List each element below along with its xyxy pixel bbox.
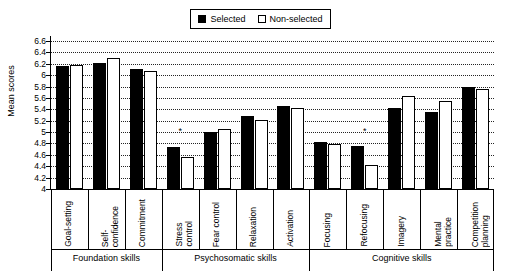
bar-group <box>420 41 457 189</box>
bar-selected <box>56 66 69 189</box>
bar-selected <box>388 108 401 189</box>
bar-non-selected <box>328 144 341 189</box>
x-tick-label: Fear control <box>212 202 222 247</box>
bar-group <box>236 41 273 189</box>
bar-group <box>457 41 494 189</box>
bar-group <box>162 41 199 189</box>
x-label-separator <box>457 190 458 249</box>
bar-non-selected <box>107 58 120 189</box>
significance-asterisk: * <box>178 126 182 135</box>
x-tick-label: Focusing <box>323 213 333 248</box>
x-tick-label: Commitment <box>138 199 148 247</box>
x-label-separator <box>420 190 421 249</box>
y-tick-label: 6.6 <box>34 37 46 46</box>
bar-selected <box>130 69 143 189</box>
category-band-label: Foundation skills <box>73 253 140 263</box>
y-tick-label: 5.8 <box>34 82 46 91</box>
y-tick-label: 6.4 <box>34 48 46 57</box>
category-separator <box>309 249 310 271</box>
bar-non-selected <box>218 129 231 189</box>
x-tick-label: Imagery <box>397 216 407 247</box>
filled-square-icon <box>198 15 206 23</box>
legend-label-selected: Selected <box>210 14 245 24</box>
chart-figure: Selected Non-selected Mean scores 44.24.… <box>0 0 511 276</box>
bar-group <box>309 41 346 189</box>
bar-group <box>125 41 162 189</box>
bar-non-selected <box>402 96 415 189</box>
significance-asterisk: * <box>363 126 367 135</box>
bar-non-selected <box>439 101 452 189</box>
x-tick-label: Self- confidence <box>101 206 120 247</box>
x-tick-label: Stress control <box>175 221 194 247</box>
y-axis-ticks: 44.24.44.64.855.25.45.65.866.26.46.6 <box>24 36 50 192</box>
y-axis-title: Mean scores <box>6 56 16 126</box>
chart-legend: Selected Non-selected <box>190 9 331 29</box>
bar-group <box>346 41 383 189</box>
bar-selected <box>351 146 364 189</box>
bar-selected <box>425 112 438 189</box>
x-axis-labels: Goal-settingSelf- confidenceCommitmentSt… <box>51 190 494 250</box>
x-label-separator <box>309 190 310 249</box>
bar-non-selected <box>144 71 157 189</box>
category-separator <box>162 249 163 271</box>
bar-selected <box>277 106 290 189</box>
bar-non-selected <box>476 89 489 189</box>
x-label-separator <box>236 190 237 249</box>
y-tick-label: 5.2 <box>34 116 46 125</box>
category-band-label: Cognitive skills <box>372 253 432 263</box>
x-label-separator <box>51 190 52 249</box>
bar-group <box>88 41 125 189</box>
y-tick-label: 4.8 <box>34 139 46 148</box>
bar-selected <box>167 147 180 189</box>
bar-selected <box>462 87 475 189</box>
x-label-separator <box>346 190 347 249</box>
x-label-separator <box>162 190 163 249</box>
y-tick-label: 5.6 <box>34 94 46 103</box>
category-band-label: Psychosomatic skills <box>194 253 277 263</box>
x-tick-label: Mental practice <box>434 217 453 247</box>
category-separator <box>493 249 494 271</box>
plot-area: ** <box>51 41 494 189</box>
bar-non-selected <box>291 108 304 189</box>
x-label-separator <box>88 190 89 249</box>
x-label-separator <box>493 190 494 249</box>
bar-selected <box>314 142 327 189</box>
x-label-separator <box>383 190 384 249</box>
legend-item-selected: Selected <box>198 14 245 24</box>
legend-label-non-selected: Non-selected <box>270 14 323 24</box>
bar-non-selected <box>365 165 378 189</box>
bar-group <box>51 41 88 189</box>
bar-selected <box>204 132 217 189</box>
x-label-separator <box>199 190 200 249</box>
category-separator <box>51 249 52 271</box>
x-tick-label: Refocusing <box>360 204 370 247</box>
x-tick-label: Competition planning <box>471 202 490 247</box>
bar-non-selected <box>255 120 268 189</box>
y-tick-label: 4.6 <box>34 151 46 160</box>
x-label-separator <box>125 190 126 249</box>
y-tick-label: 5.4 <box>34 105 46 114</box>
y-tick-label: 6.2 <box>34 60 46 69</box>
y-tick-label: 4.2 <box>34 173 46 182</box>
category-band: Foundation skillsPsychosomatic skillsCog… <box>51 249 494 271</box>
y-tick-label: 4.4 <box>34 162 46 171</box>
x-tick-label: Goal-setting <box>64 201 74 247</box>
bar-selected <box>93 63 106 189</box>
bar-group <box>199 41 236 189</box>
bar-non-selected <box>181 157 194 189</box>
x-tick-label: Relaxation <box>249 207 259 247</box>
bar-selected <box>241 116 254 189</box>
x-label-separator <box>273 190 274 249</box>
bar-group <box>383 41 420 189</box>
open-square-icon <box>258 15 266 23</box>
legend-item-non-selected: Non-selected <box>258 14 323 24</box>
x-tick-label: Activation <box>286 210 296 247</box>
bar-non-selected <box>70 65 83 189</box>
bar-group <box>273 41 310 189</box>
